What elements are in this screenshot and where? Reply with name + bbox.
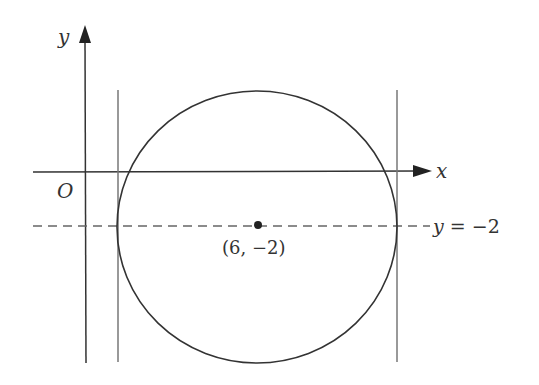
center-label: (6, −2) bbox=[222, 237, 285, 258]
y-axis-arrow-icon bbox=[79, 25, 91, 43]
diagram-canvas: y x O (6, −2) y = −2 bbox=[0, 0, 539, 385]
origin-label: O bbox=[57, 179, 73, 203]
y-axis-label: y bbox=[57, 25, 70, 49]
y-axis bbox=[79, 25, 91, 363]
x-axis bbox=[33, 165, 432, 177]
x-axis-label: x bbox=[436, 159, 447, 183]
dashed-line-label: y = −2 bbox=[432, 215, 500, 237]
center-point bbox=[254, 221, 262, 229]
x-axis-arrow-icon bbox=[413, 165, 432, 177]
